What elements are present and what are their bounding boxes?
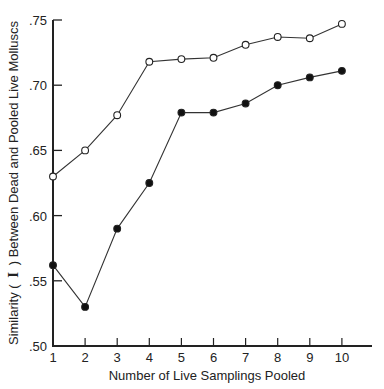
y-tick-label: .65 <box>29 143 47 158</box>
open-circle-marker <box>146 58 153 65</box>
filled-circle-marker <box>274 82 281 89</box>
filled-circle-marker <box>306 74 313 81</box>
filled-circle-marker <box>339 67 346 74</box>
y-tick-label: .60 <box>29 209 47 224</box>
similarity-line-chart: .50.55.60.65.70.75 12345678910 Number of… <box>0 0 384 389</box>
x-tick-label: 3 <box>114 350 121 365</box>
data-series <box>50 21 346 311</box>
x-tick-label: 8 <box>274 350 281 365</box>
svg-text:Similarity ( I ) B: Similarity ( I ) Between Dead and Pooled… <box>5 20 21 345</box>
series-open-circles <box>50 21 346 180</box>
open-circle-marker <box>178 56 185 63</box>
series-filled-circles <box>50 67 346 310</box>
x-tick-label: 9 <box>306 350 313 365</box>
y-label-pre: Similarity ( <box>6 284 21 345</box>
x-tick-label: 4 <box>146 350 153 365</box>
open-circle-marker <box>306 35 313 42</box>
filled-circle-marker <box>210 109 217 116</box>
series-line <box>53 24 342 177</box>
y-label-symbol: I <box>5 272 21 278</box>
x-tick-label: 10 <box>335 350 349 365</box>
open-circle-marker <box>210 54 217 61</box>
open-circle-marker <box>50 173 57 180</box>
x-tick-label: 6 <box>210 350 217 365</box>
y-label-post: ) Between Dead and Pooled Live Molluscs <box>6 20 21 265</box>
x-tick-label: 7 <box>242 350 249 365</box>
axes <box>52 20 372 347</box>
x-tick-label: 2 <box>81 350 88 365</box>
filled-circle-marker <box>146 180 153 187</box>
y-axis-label: Similarity ( I ) Between Dead and Pooled… <box>5 20 21 345</box>
open-circle-marker <box>242 41 249 48</box>
x-ticks: 12345678910 <box>49 338 349 365</box>
open-circle-marker <box>274 34 281 41</box>
filled-circle-marker <box>114 225 121 232</box>
y-tick-label: .55 <box>29 274 47 289</box>
series-line <box>53 71 342 307</box>
x-axis-label: Number of Live Samplings Pooled <box>109 368 306 383</box>
open-circle-marker <box>114 112 121 119</box>
filled-circle-marker <box>242 100 249 107</box>
filled-circle-marker <box>50 262 57 269</box>
x-tick-label: 1 <box>49 350 56 365</box>
y-ticks: .50.55.60.65.70.75 <box>29 13 62 354</box>
filled-circle-marker <box>178 109 185 116</box>
y-tick-label: .70 <box>29 78 47 93</box>
filled-circle-marker <box>82 303 89 310</box>
open-circle-marker <box>82 147 89 154</box>
x-tick-label: 5 <box>178 350 185 365</box>
y-tick-label: .75 <box>29 13 47 28</box>
y-tick-label: .50 <box>29 339 47 354</box>
open-circle-marker <box>339 21 346 28</box>
